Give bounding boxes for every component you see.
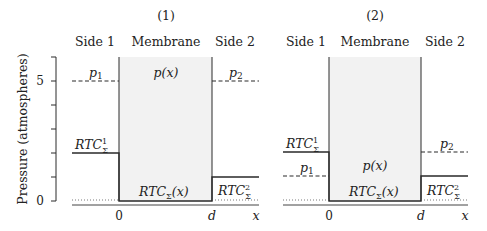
panel-1-p2-label: p2 — [229, 65, 243, 81]
y-tick-5: 5 — [36, 74, 44, 88]
panel-1-x-label: x — [252, 208, 259, 223]
panel-2-membrane — [329, 57, 421, 201]
panel-2-header-side2: Side 2 — [425, 34, 465, 49]
panel-2-rtcx-label: RTCΣ(x) — [348, 184, 399, 201]
panel-1-header-membrane: Membrane — [132, 34, 201, 49]
panel-1-x-tick-d: d — [208, 208, 216, 223]
panel-2-header-side1: Side 1 — [286, 34, 326, 49]
panel-1-header-side1: Side 1 — [75, 34, 115, 49]
panel-2-px-label: p(x) — [363, 158, 388, 173]
panel-2-header-membrane: Membrane — [341, 34, 410, 49]
membrane-pressure-diagram: 5 0 Pressure (atmospheres) (1) Side 1 Me… — [0, 0, 487, 231]
panel-1-header-side2: Side 2 — [215, 34, 255, 49]
panel-2-title: (2) — [366, 8, 384, 23]
panel-1-p1-label: p1 — [89, 65, 103, 81]
panel-1-title: (1) — [157, 8, 175, 23]
y-tick-0: 0 — [36, 194, 44, 208]
panel-2-x-tick-d: d — [417, 208, 425, 223]
panel-1: (1) Side 1 Membrane Side 2 p1 p(x) p2 RT… — [72, 8, 260, 223]
y-axis-label: Pressure (atmospheres) — [15, 53, 30, 204]
panel-2: (2) Side 1 Membrane Side 2 RTC1Σ p1 p(x)… — [283, 8, 469, 223]
panel-1-px-label: p(x) — [154, 65, 179, 80]
panel-2-x-tick-0: 0 — [325, 209, 333, 223]
panel-2-x-label: x — [461, 208, 468, 223]
panel-1-rtcx-label: RTCΣ(x) — [138, 184, 189, 201]
panel-1-x-tick-0: 0 — [115, 209, 123, 223]
panel-2-rtc2-label: RTC2Σ — [426, 183, 460, 201]
panel-2-p2-label: p2 — [440, 136, 454, 152]
panel-1-rtc2-label: RTC2Σ — [217, 183, 251, 201]
y-axis — [51, 57, 56, 201]
panel-2-p1-label: p1 — [300, 160, 314, 176]
